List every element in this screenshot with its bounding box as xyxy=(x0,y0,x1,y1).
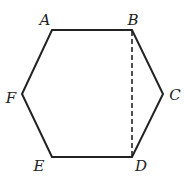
hexagon-figure xyxy=(0,0,186,179)
hexagon-diagram: A B C D E F xyxy=(0,0,186,179)
vertex-label-a: A xyxy=(40,13,51,28)
vertex-label-e: E xyxy=(34,159,45,174)
vertex-label-d: D xyxy=(135,159,147,174)
vertex-label-b: B xyxy=(127,13,138,28)
vertex-label-c: C xyxy=(169,88,180,103)
vertex-label-f: F xyxy=(6,91,16,106)
hexagon-outline xyxy=(22,30,163,157)
